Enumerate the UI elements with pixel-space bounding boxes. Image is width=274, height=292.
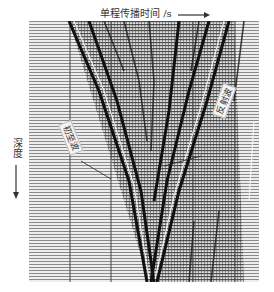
- vsp-seismic-figure: 单程传播时间 /s 深度: [0, 0, 274, 292]
- seismic-section-panel: [29, 21, 259, 282]
- x-axis-title: 单程传播时间 /s: [100, 8, 172, 19]
- y-axis-label: 深度: [9, 138, 24, 199]
- arrow-down-icon: [12, 165, 20, 199]
- arrow-right-icon: [178, 11, 210, 19]
- y-axis-title: 深度: [11, 138, 22, 158]
- x-axis-label: 单程传播时间 /s: [100, 5, 210, 20]
